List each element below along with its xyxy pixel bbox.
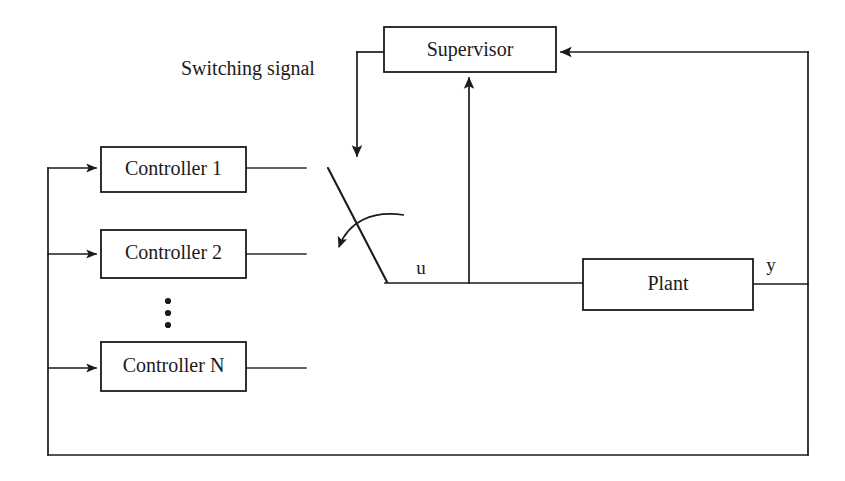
controller-ellipsis-icon <box>165 298 171 328</box>
block-label-controller-n: Controller N <box>123 354 225 376</box>
block-supervisor[interactable]: Supervisor <box>384 27 556 72</box>
block-label-plant: Plant <box>647 272 689 294</box>
annotation-switching-signal: Switching signal <box>181 57 315 80</box>
wire-controller-input-bus <box>48 168 96 455</box>
diagram-svg: Supervisor Controller 1 Controller 2 Con… <box>0 0 845 481</box>
annotation-signal-y: y <box>766 254 776 275</box>
switching-element[interactable] <box>328 168 404 282</box>
block-plant[interactable]: Plant <box>583 259 753 310</box>
wire-controller-output-stubs <box>246 168 306 368</box>
block-controller-1[interactable]: Controller 1 <box>101 147 246 192</box>
block-label-controller-1: Controller 1 <box>125 157 222 179</box>
block-controller-2[interactable]: Controller 2 <box>101 230 246 278</box>
annotation-signal-u: u <box>416 257 426 278</box>
wire-plant-output-feedback <box>561 52 808 284</box>
block-label-controller-2: Controller 2 <box>125 241 222 263</box>
wire-switching-signal <box>357 52 384 156</box>
block-label-supervisor: Supervisor <box>427 38 514 61</box>
block-controller-n[interactable]: Controller N <box>101 342 246 391</box>
block-diagram-canvas: Supervisor Controller 1 Controller 2 Con… <box>0 0 845 481</box>
